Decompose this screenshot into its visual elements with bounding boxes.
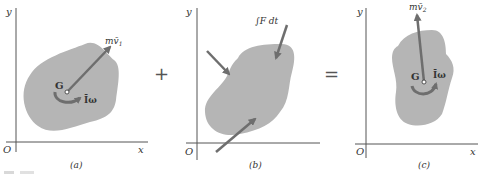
momentum-label: mv̄1 xyxy=(105,36,122,47)
impulse-label: ∫F dt xyxy=(255,16,279,26)
center-label: G xyxy=(55,80,64,91)
panel-label: (a) xyxy=(70,160,83,170)
center-of-mass-dot xyxy=(422,80,426,84)
panel-label: (b) xyxy=(249,160,262,170)
center-of-mass-dot xyxy=(65,90,69,94)
origin-label: O xyxy=(356,146,364,157)
cropped-caption-fragment xyxy=(4,171,48,174)
impulse-arrow xyxy=(207,51,229,74)
x-axis-label: x xyxy=(138,144,144,155)
rigid-body-shape xyxy=(205,44,294,135)
angular-momentum-label: Īω xyxy=(433,69,446,80)
y-axis-label: y xyxy=(356,6,363,17)
panel-a: y O x G mv̄1 Īω (a) xyxy=(3,6,148,170)
panel-b: y O ∫F dt (b) xyxy=(185,6,320,170)
center-label: G xyxy=(411,71,420,82)
equals-operator: = xyxy=(324,63,339,84)
y-axis-label: y xyxy=(5,6,12,17)
origin-label: O xyxy=(3,144,11,155)
plus-operator: + xyxy=(154,63,169,84)
y-axis-label: y xyxy=(185,6,192,17)
panel-c: y O x G mv̄2 Īω (c) xyxy=(355,2,478,170)
momentum-label: mv̄2 xyxy=(409,2,427,13)
x-axis-label: x xyxy=(470,146,476,157)
impulse-momentum-diagram: y O x G mv̄1 Īω (a) + y O ∫F dt (b) = y … xyxy=(0,0,480,178)
angular-momentum-label: Īω xyxy=(84,94,97,105)
origin-label: O xyxy=(185,146,193,157)
panel-label: (c) xyxy=(418,160,431,170)
